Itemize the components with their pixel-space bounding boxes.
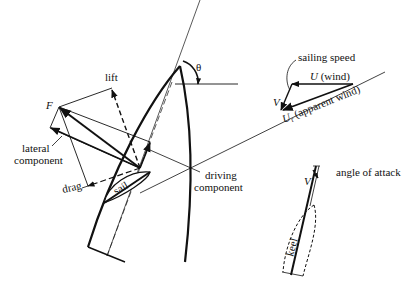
keel-label: keel [283,237,299,258]
keel-diagram [282,166,320,276]
lateral-leader [52,136,62,146]
apparent-wind-label: Ur (apparent wind) [280,83,363,127]
theta-label: θ [196,61,201,73]
lift-label: lift [105,71,118,83]
drag-label: drag [61,179,83,195]
angle-of-attack-label: angle of attack [336,166,401,178]
driving-component-arrow [140,143,150,168]
lateral-label-line2: component [14,154,63,166]
drag-leader [82,186,88,188]
sailing-speed-label: sailing speed [298,51,356,63]
boat-centerline [107,0,200,256]
wind-label: U (wind) [310,70,350,83]
lateral-label-line1: lateral [22,142,49,154]
driving-label-line1: driving [205,169,237,181]
driving-label-line2: component [194,181,243,193]
sailing-force-diagram: θ sail lift F lateral component drag dri… [0,0,407,287]
driving-leader [150,150,200,172]
velocity-label: V [273,96,281,108]
force-label: F [45,99,53,111]
